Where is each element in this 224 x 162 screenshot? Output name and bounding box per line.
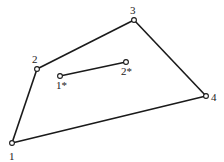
node-3-icon (132, 18, 137, 23)
nodes (10, 18, 209, 146)
edge-2-3 (37, 20, 134, 69)
node-1-star-icon (58, 74, 63, 79)
edge-1-2 (12, 69, 37, 143)
node-2-icon (35, 67, 40, 72)
edge-1*-2* (60, 62, 126, 76)
node-label-1-star: 1* (56, 79, 67, 91)
labels: 12341*2* (9, 4, 217, 162)
node-label-4: 4 (211, 91, 217, 103)
node-4-icon (204, 94, 209, 99)
node-label-2: 2 (32, 53, 38, 65)
linkage-diagram: 12341*2* (0, 0, 224, 162)
edge-3-4 (134, 20, 206, 96)
node-2-star-icon (124, 60, 129, 65)
node-label-3: 3 (130, 4, 136, 16)
edges (12, 20, 206, 143)
edge-4-1 (12, 96, 206, 143)
node-1-icon (10, 141, 15, 146)
node-label-2-star: 2* (121, 65, 132, 77)
node-label-1: 1 (9, 150, 15, 162)
